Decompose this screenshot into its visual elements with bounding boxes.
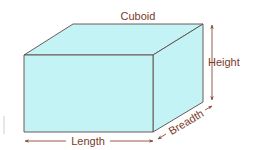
left-edge-mark	[3, 116, 5, 134]
cuboid-shape	[24, 24, 203, 132]
height-label: Height	[208, 56, 240, 68]
breadth-arrow-end	[205, 106, 212, 110]
cuboid-title: Cuboid	[121, 10, 156, 22]
cuboid-diagram: Cuboid Height Length Breadth	[0, 0, 259, 150]
length-label: Length	[71, 135, 105, 147]
breadth-arrow-start	[158, 134, 166, 139]
front-face	[24, 55, 153, 132]
